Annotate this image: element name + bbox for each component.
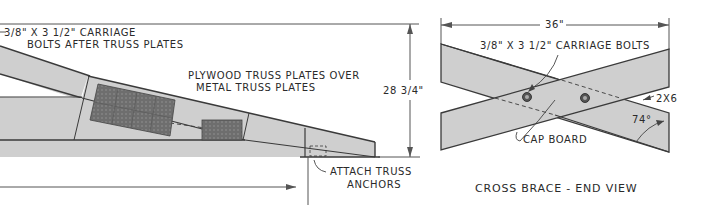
anchors-note-line2: ANCHORS [347, 179, 401, 191]
lumber-size-label: 2X6 [656, 93, 677, 105]
cross-brace-view-title: CROSS BRACE - END VIEW [475, 183, 637, 195]
cap-board-label: CAP BOARD [523, 134, 587, 146]
carriage-bolt-right [581, 94, 590, 103]
upper-rafter [0, 46, 88, 100]
width-dimension-label: 36" [543, 19, 566, 31]
carriage-bolt-note-line2: BOLTS AFTER TRUSS PLATES [27, 39, 184, 51]
carriage-bolt-left [523, 93, 532, 102]
drawing-canvas: 3/8" X 3 1/2" CARRIAGE BOLTS AFTER TRUSS… [0, 0, 719, 217]
plywood-truss-plate-small [202, 120, 242, 140]
anchor-leader [314, 160, 326, 172]
plywood-plates-note-line1: PLYWOOD TRUSS PLATES OVER [188, 70, 360, 82]
angle-label: 74° [632, 114, 652, 126]
plywood-plates-note-line2: METAL TRUSS PLATES [196, 82, 316, 94]
cross-brace-bolts-note: 3/8" X 3 1/2" CARRIAGE BOLTS [480, 40, 650, 52]
anchors-note-line1: ATTACH TRUSS [330, 166, 412, 178]
carriage-bolt-note-line1: 3/8" X 3 1/2" CARRIAGE [4, 27, 136, 39]
height-dimension-label: 28 3/4" [382, 85, 425, 97]
